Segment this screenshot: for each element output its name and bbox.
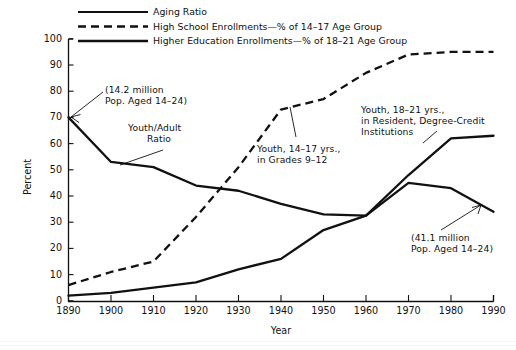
y-axis-ticks [69,39,74,301]
scan-artifact [0,341,516,342]
legend-label-aging-ratio: Aging Ratio [153,6,207,17]
annotation-pop-1990-line1: (41.1 million [411,232,470,243]
y-tick-label-10: 10 [36,269,62,280]
x-tick-label-1990: 1990 [477,305,511,316]
x-tick-label-1950: 1950 [307,305,341,316]
annotation-pop-1890-line2: Pop. Aged 14–24) [105,95,187,106]
chart-plot-area [0,0,516,350]
x-axis-title: Year [251,325,311,336]
annotation-youth-18-21-line2: in Resident, Degree-Credit [361,115,485,126]
x-tick-label-1960: 1960 [349,305,383,316]
y-tick-label-50: 50 [36,164,62,175]
annotation-youth-18-21-line3: Institutions [361,126,413,137]
annotation-youth-adult-ratio-line2: Ratio [147,133,171,144]
y-tick-label-40: 40 [36,190,62,201]
x-tick-label-1970: 1970 [392,305,426,316]
annotation-pop-1990-line2: Pop. Aged 14–24) [411,243,493,254]
annotation-youth-14-17-line1: Youth, 14–17 yrs., [257,143,341,154]
y-tick-label-100: 100 [36,33,62,44]
x-tick-label-1980: 1980 [434,305,468,316]
annotation-pop-1890-line1: (14.2 million [105,84,164,95]
y-tick-label-20: 20 [36,242,62,253]
y-tick-label-30: 30 [36,216,62,227]
annotation-youth-18-21-line1: Youth, 18–21 yrs., [361,104,445,115]
annotation-youth-14-17-line2: in Grades 9–12 [257,154,327,165]
x-axis-ticks [69,295,494,302]
x-tick-label-1910: 1910 [137,305,171,316]
y-tick-label-90: 90 [36,59,62,70]
annotation-youth-adult-ratio-line1: Youth/Adult [128,122,181,133]
x-tick-label-1890: 1890 [52,305,86,316]
axis-lines [69,39,494,302]
x-tick-label-1930: 1930 [222,305,256,316]
y-axis-title: Percent [22,159,33,195]
x-tick-label-1940: 1940 [264,305,298,316]
legend-sample-lines [78,12,148,41]
scan-artifact [0,345,516,346]
x-tick-label-1900: 1900 [94,305,128,316]
y-tick-label-70: 70 [36,111,62,122]
y-tick-label-80: 80 [36,85,62,96]
legend-label-high-school-enrollments: High School Enrollments—% of 14–17 Age G… [153,21,382,32]
chart-figure: Aging Ratio High School Enrollments—% of… [0,0,516,350]
x-tick-label-1920: 1920 [179,305,213,316]
legend-label-higher-education-enrollments: Higher Education Enrollments—% of 18–21 … [153,35,407,46]
y-tick-label-60: 60 [36,138,62,149]
